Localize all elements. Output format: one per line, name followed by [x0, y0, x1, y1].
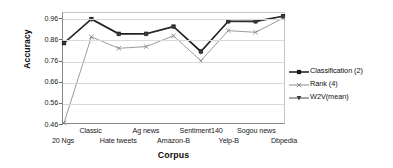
legend-item-2[interactable]: Rank (4): [288, 77, 391, 89]
data-point-marker: [89, 35, 93, 39]
y-tick-mark: [59, 124, 62, 125]
gridline: [63, 19, 284, 20]
gridline: [63, 83, 284, 84]
line-chart-figure: Accuracy 0.460.560.660.760.860.96 20 Ngs…: [0, 0, 393, 168]
legend-label: Rank (4): [310, 79, 338, 88]
data-point-marker: [62, 121, 66, 125]
y-tick-label: 0.86: [28, 35, 58, 44]
series-line: [64, 18, 283, 123]
y-axis-title: Accuracy: [22, 16, 32, 82]
gridline: [63, 40, 284, 41]
series-line: [64, 16, 283, 51]
triangle-down-marker-icon: [288, 90, 310, 102]
x-tick-label: Sogou news: [216, 126, 296, 135]
y-tick-label: 0.56: [28, 98, 58, 107]
square-marker-icon: [288, 64, 310, 76]
y-tick-mark: [59, 61, 62, 62]
gridline: [63, 104, 284, 105]
y-tick-mark: [59, 103, 62, 104]
legend-item-3[interactable]: W2V(mean): [288, 90, 391, 102]
data-point-marker: [171, 34, 175, 38]
plot-area: [62, 12, 285, 124]
y-tick-label: 0.66: [28, 77, 58, 86]
y-tick-label: 0.96: [28, 14, 58, 23]
x-marker-icon: [288, 77, 310, 89]
y-tick-label: 0.76: [28, 56, 58, 65]
x-axis-title: Corpus: [62, 150, 285, 160]
y-tick-mark: [59, 39, 62, 40]
x-tick-label: Dbpedia: [244, 136, 324, 145]
gridline: [63, 62, 284, 63]
legend-item-1[interactable]: Classification (2): [288, 64, 391, 76]
legend-label: Classification (2): [310, 66, 363, 75]
y-tick-mark: [59, 82, 62, 83]
y-tick-mark: [59, 18, 62, 19]
chart-legend: Classification (2)Rank (4)W2V(mean): [288, 64, 391, 103]
legend-label: W2V(mean): [310, 92, 349, 101]
chart-series-layer: [63, 13, 284, 123]
